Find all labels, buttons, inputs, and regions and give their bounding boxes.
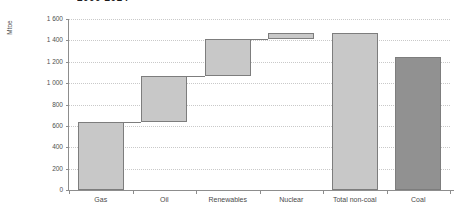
x-axis-line [69, 190, 454, 191]
gridline [69, 126, 450, 127]
y-tick-mark [66, 83, 69, 84]
x-tick-mark [387, 190, 388, 194]
waterfall-connector [187, 76, 205, 77]
bar-total-non-coal [332, 33, 378, 190]
y-tick-label: 800 [29, 101, 63, 108]
x-tick-label-coal: Coal [387, 196, 451, 203]
x-tick-label-nuclear: Nuclear [260, 196, 324, 203]
waterfall-connector [251, 39, 269, 40]
y-tick-mark [66, 169, 69, 170]
y-tick-mark [66, 147, 69, 148]
gridline [69, 105, 450, 106]
y-tick-label: 1 400 [29, 36, 63, 43]
y-tick-label: 1 600 [29, 15, 63, 22]
y-tick-label: 400 [29, 143, 63, 150]
x-tick-label-total-non-coal: Total non-coal [323, 196, 387, 203]
chart-title-text: 2000-2014 [77, 0, 197, 2]
gridline [69, 83, 450, 84]
y-tick-label: 600 [29, 122, 63, 129]
y-tick-mark [66, 62, 69, 63]
y-tick-label: 1 200 [29, 58, 63, 65]
bar-renewables [205, 39, 251, 76]
y-tick-mark [66, 126, 69, 127]
bar-nuclear [268, 33, 314, 38]
y-tick-label: 0 [29, 186, 63, 193]
waterfall-connector [124, 122, 142, 123]
y-axis-title: Mtoe [6, 11, 13, 45]
gridline [69, 147, 450, 148]
x-tick-label-renewables: Renewables [196, 196, 260, 203]
chart-title-clipped: 2000-2014 [77, 0, 197, 2]
x-tick-mark [196, 190, 197, 194]
x-tick-label-gas: Gas [69, 196, 133, 203]
y-tick-mark [66, 105, 69, 106]
y-tick-label: 200 [29, 165, 63, 172]
gridline [69, 19, 450, 20]
x-tick-mark [133, 190, 134, 194]
x-tick-mark [260, 190, 261, 194]
gridline [69, 169, 450, 170]
bar-coal [395, 57, 441, 190]
x-tick-mark [450, 190, 451, 194]
gridline [69, 62, 450, 63]
y-tick-mark [66, 19, 69, 20]
bar-gas [78, 122, 124, 190]
x-tick-mark [69, 190, 70, 194]
gridline [69, 40, 450, 41]
y-tick-label: 1 000 [29, 79, 63, 86]
plot-area: 02004006008001 0001 2001 4001 600 [69, 19, 450, 190]
x-tick-label-oil: Oil [133, 196, 197, 203]
waterfall-chart-figure: 2000-2014 Mtoe 02004006008001 0001 2001 … [0, 0, 462, 218]
x-tick-mark [323, 190, 324, 194]
y-tick-mark [66, 40, 69, 41]
bar-oil [141, 76, 187, 122]
